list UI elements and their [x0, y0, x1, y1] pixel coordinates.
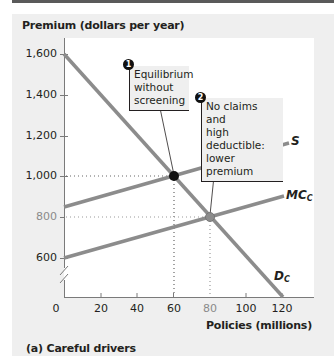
reference-lines	[66, 176, 174, 296]
supply-label: S	[291, 134, 300, 148]
x-axis-title: Policies (millions)	[206, 319, 312, 332]
callout1-number-badge: 1	[123, 59, 134, 70]
demand-label: DC	[274, 269, 290, 284]
chart-canvas	[0, 0, 334, 364]
x-ticks	[101, 293, 282, 297]
screening-point	[206, 213, 215, 222]
figure-caption: (a) Careful drivers	[26, 342, 136, 355]
callout2-number-badge: 2	[195, 92, 206, 103]
equilibrium-point	[169, 171, 179, 181]
mc-label: MCC	[286, 188, 313, 203]
callout-equilibrium: Equilibrium without screening	[129, 66, 189, 111]
callout-no-claims: No claims and high deductible: lower pre…	[201, 98, 283, 182]
